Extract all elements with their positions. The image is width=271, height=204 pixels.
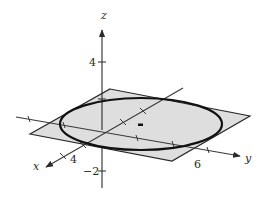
z-tick-label-neg2: −2: [83, 165, 99, 178]
x-tick-label-4: 4: [70, 153, 77, 166]
y-tick-label-6: 6: [194, 158, 201, 171]
3d-diagram: z 4 −2 4 x 6 y: [0, 0, 271, 204]
center-point: [138, 124, 143, 127]
z-axis-label: z: [100, 9, 107, 22]
z-tick-label-4: 4: [89, 56, 96, 69]
y-axis-label: y: [244, 152, 252, 165]
x-axis-label: x: [33, 160, 40, 173]
